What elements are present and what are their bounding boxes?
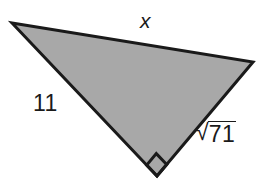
- side-label-top: x: [140, 10, 151, 31]
- side-label-right: √71: [196, 121, 236, 146]
- geometry-figure: x 11 √71: [0, 0, 273, 182]
- side-label-left: 11: [33, 92, 58, 115]
- radical-expression: √71: [196, 121, 236, 146]
- radicand-value: 71: [208, 121, 237, 146]
